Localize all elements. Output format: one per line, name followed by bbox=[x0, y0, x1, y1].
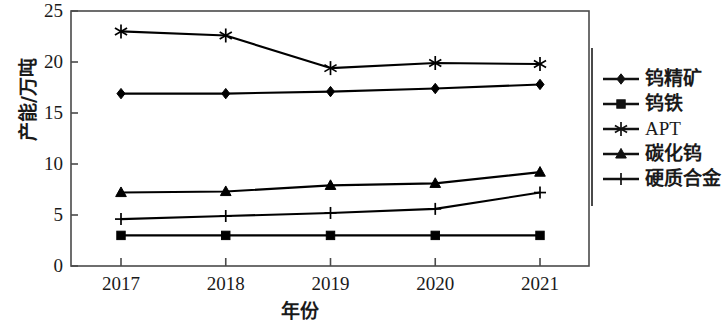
plus-marker bbox=[602, 168, 640, 190]
series-4 bbox=[116, 167, 546, 197]
legend-label: 硬质合金 bbox=[645, 169, 721, 188]
series-1 bbox=[117, 79, 544, 99]
legend-label: APT bbox=[645, 119, 681, 138]
legend-item-1[interactable]: 钨精矿 bbox=[602, 66, 726, 91]
legend-label: 碳化钨 bbox=[645, 144, 702, 163]
asterisk-marker bbox=[602, 118, 640, 140]
legend-label: 钨铁 bbox=[645, 94, 683, 113]
axis-frame bbox=[71, 11, 589, 266]
diamond-marker bbox=[602, 68, 640, 90]
triangle-marker bbox=[602, 143, 640, 165]
legend-item-5[interactable]: 硬质合金 bbox=[602, 166, 726, 191]
series-3 bbox=[115, 24, 546, 75]
legend-item-4[interactable]: 碳化钨 bbox=[602, 141, 726, 166]
series-layer bbox=[115, 24, 546, 239]
chart-legend: 钨精矿钨铁APT碳化钨硬质合金 bbox=[602, 66, 726, 191]
legend-divider bbox=[591, 48, 593, 206]
legend-label: 钨精矿 bbox=[645, 69, 702, 88]
square-marker bbox=[602, 93, 640, 115]
legend-item-3[interactable]: APT bbox=[602, 116, 726, 141]
chart-figure: 产能/万吨 年份 0510152025 20172018201920202021… bbox=[0, 0, 726, 328]
tick-marks bbox=[71, 11, 540, 266]
series-2 bbox=[117, 231, 544, 239]
legend-item-2[interactable]: 钨铁 bbox=[602, 91, 726, 116]
